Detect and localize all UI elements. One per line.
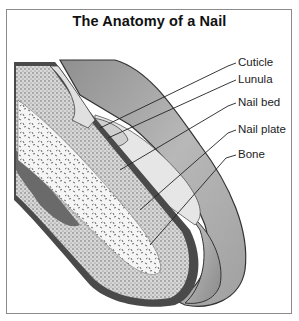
label-nail-plate: Nail plate bbox=[238, 123, 286, 135]
label-bone: Bone bbox=[238, 148, 265, 160]
nail-anatomy-illustration bbox=[0, 0, 299, 321]
label-nail-bed: Nail bed bbox=[238, 96, 280, 108]
label-cuticle: Cuticle bbox=[238, 56, 273, 68]
label-lunula: Lunula bbox=[238, 73, 273, 85]
